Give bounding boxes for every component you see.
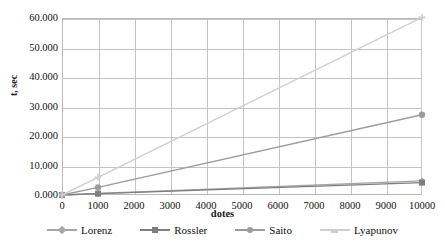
series-lorenz — [59, 177, 426, 198]
legend-label: Lorenz — [81, 224, 112, 236]
data-point-marker — [419, 14, 426, 21]
legend-item-saito[interactable]: Saito — [235, 224, 292, 236]
y-axis-tick-label: 60.000 — [14, 13, 58, 23]
legend-swatch-diamond-icon — [47, 225, 77, 235]
legend-swatch-circle-icon — [235, 225, 265, 235]
legend-swatch-square-icon — [140, 225, 170, 235]
y-axis-tick-label: 40.000 — [14, 72, 58, 82]
y-axis-tick-label: 0.000 — [14, 190, 58, 200]
legend-label: Saito — [269, 224, 292, 236]
legend-label: Rossler — [174, 224, 207, 236]
data-point-marker — [95, 184, 101, 190]
legend-label: Lyapunov — [354, 224, 398, 236]
y-axis-tick-label: 20.000 — [14, 131, 58, 141]
series-line — [62, 17, 422, 195]
data-point-marker — [419, 112, 425, 118]
y-axis-tick-label: 50.000 — [14, 43, 58, 53]
legend-marker-diamond-icon — [58, 226, 66, 234]
series-saito — [59, 112, 425, 199]
series-lyapunov — [59, 14, 426, 198]
legend-marker-cross-icon — [331, 231, 338, 233]
legend-item-lorenz[interactable]: Lorenz — [47, 224, 112, 236]
legend-item-lyapunov[interactable]: Lyapunov — [320, 224, 398, 236]
legend-marker-square-icon — [152, 227, 158, 233]
data-point-marker — [419, 180, 425, 186]
chart-legend: LorenzRosslerSaitoLyapunov — [0, 224, 445, 236]
chart-container: t, sec dotes LorenzRosslerSaitoLyapunov … — [0, 0, 445, 251]
y-axis-tick-label: 10.000 — [14, 161, 58, 171]
series-layer — [62, 18, 422, 195]
legend-marker-circle-icon — [247, 227, 253, 233]
data-point-marker — [95, 191, 101, 197]
y-axis-tick-label: 30.000 — [14, 102, 58, 112]
legend-swatch-cross-icon — [320, 225, 350, 235]
legend-item-rossler[interactable]: Rossler — [140, 224, 207, 236]
x-axis-tick-label: 10000 — [397, 201, 445, 211]
series-line — [62, 183, 422, 195]
data-point-marker — [95, 174, 102, 181]
